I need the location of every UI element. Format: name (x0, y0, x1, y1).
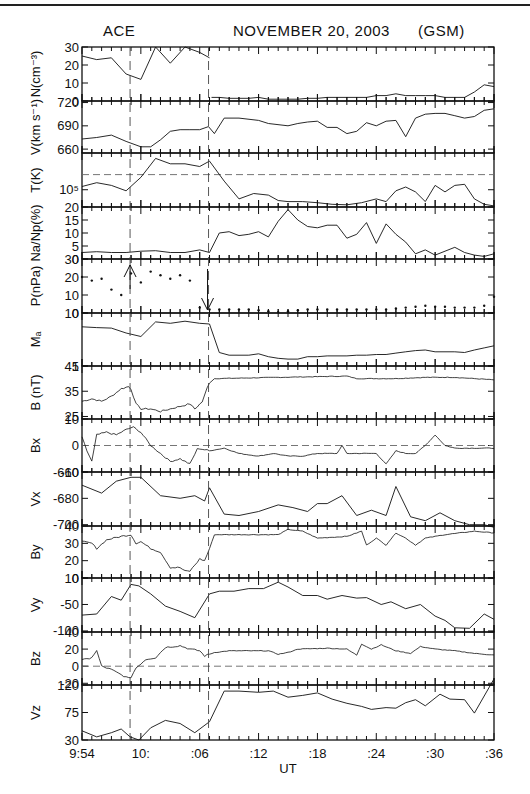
panel-V: 660690720V(km s⁻¹) (28, 94, 494, 157)
y-tick-label: -660 (53, 465, 79, 480)
y-tick-label: 20 (65, 270, 79, 285)
y-tick-label: 10 (65, 76, 79, 91)
y-tick-label: 10 (65, 288, 79, 303)
x-tick-label: :24 (367, 746, 385, 761)
panel-Bx: -10010Bx (28, 412, 494, 480)
y-axis-label: Vz (28, 705, 43, 720)
panel-B: 253545B (nT) (28, 359, 494, 424)
y-tick-label: 15 (65, 213, 79, 228)
y-tick-label: 20 (65, 553, 79, 568)
y-tick-label: 30 (65, 536, 79, 551)
y-axis-label: V(km s⁻¹) (28, 99, 43, 155)
y-axis-label: Bx (28, 437, 43, 453)
y-axis-label: P(nPa) (28, 266, 43, 306)
y-tick-label: 75 (65, 705, 79, 720)
x-tick-label: :30 (426, 746, 444, 761)
panel-N: 0102030N(cm⁻³) (28, 40, 494, 109)
x-tick-label: 9:54 (69, 746, 94, 761)
panel-T: 10⁵T(K) (28, 146, 494, 207)
panel-NaNp: 05101520Na/Np(%) (28, 200, 494, 267)
panel-Bz: -2002040Bz (28, 625, 494, 691)
x-tick-label: 10: (132, 746, 150, 761)
y-tick-label: 30 (65, 40, 79, 55)
y-tick-label: 20 (65, 58, 79, 73)
x-tick-label: :12 (250, 746, 268, 761)
y-tick-label: 0 (72, 438, 79, 453)
y-axis-label: Bz (28, 651, 43, 666)
y-tick-label: 10 (65, 226, 79, 241)
panel-MA: 110Mₐ (28, 306, 494, 374)
y-tick-label: 40 (65, 519, 79, 534)
stacked-timeseries-chart: 0102030N(cm⁻³)660690720V(km s⁻¹)10⁵T(K)0… (0, 0, 530, 794)
y-axis-label: Vy (28, 597, 43, 612)
y-tick-label: 660 (57, 142, 79, 157)
panel-Vz: 3075120Vz (28, 678, 494, 748)
y-tick-label: 40 (65, 625, 79, 640)
y-axis-label: By (28, 544, 43, 560)
y-tick-label: 10⁵ (59, 182, 79, 197)
y-tick-label: 30 (65, 252, 79, 267)
y-tick-label: 10 (65, 306, 79, 321)
y-tick-label: 690 (57, 118, 79, 133)
y-tick-label: 20 (65, 642, 79, 657)
y-axis-label: T(K) (28, 167, 43, 192)
y-tick-label: 0 (72, 571, 79, 586)
y-axis-label: Mₐ (28, 332, 43, 348)
y-tick-label: 720 (57, 95, 79, 110)
y-tick-label: 0 (72, 659, 79, 674)
x-tick-label: :18 (308, 746, 326, 761)
y-axis-label: N(cm⁻³) (28, 51, 43, 98)
y-tick-label: 45 (65, 359, 79, 374)
y-tick-label: 20 (65, 200, 79, 215)
y-tick-label: 10 (65, 412, 79, 427)
panel-Vy: -100-500Vy (28, 571, 494, 639)
x-axis-label: UT (279, 761, 296, 776)
panel-By: 10203040By (28, 519, 494, 586)
x-tick-label: :36 (485, 746, 503, 761)
y-axis-label: Vx (28, 491, 43, 507)
y-axis-label: Na/Np(%) (28, 204, 43, 261)
y-tick-label: 35 (65, 384, 79, 399)
y-axis-label: B (nT) (28, 374, 43, 410)
x-tick-label: :06 (191, 746, 209, 761)
y-tick-label: -50 (60, 597, 79, 612)
y-tick-label: -680 (53, 491, 79, 506)
panel-Vx: -700-680-660Vx (28, 465, 494, 533)
y-tick-label: 120 (57, 678, 79, 693)
